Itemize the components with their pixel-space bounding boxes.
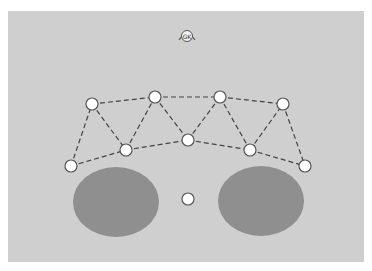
- node-n9: [299, 160, 311, 172]
- node-n1: [65, 160, 77, 172]
- right-blob: [218, 166, 304, 236]
- node-n2: [86, 98, 98, 110]
- edge-n5-n7: [188, 140, 250, 150]
- node-n3: [120, 144, 132, 156]
- edge-n4-n5: [155, 97, 188, 140]
- edge-n2-n3: [92, 104, 126, 150]
- edge-n3-n5: [126, 140, 188, 150]
- edge-n1-n2: [71, 104, 92, 166]
- edge-n2-n4: [92, 97, 155, 104]
- edge-n1-n3: [71, 150, 126, 166]
- edge-n3-n4: [126, 97, 155, 150]
- edge-n7-n8: [250, 104, 283, 150]
- edge-n5-n6: [188, 97, 220, 140]
- node-n8: [277, 98, 289, 110]
- edge-n8-n9: [283, 104, 305, 166]
- edge-layer: [71, 97, 305, 166]
- network-diagram: GK: [0, 0, 372, 271]
- edge-n6-n7: [220, 97, 250, 150]
- edge-n7-n9: [250, 150, 305, 166]
- left-blob: [73, 167, 159, 237]
- gk-badge-icon: GK: [179, 31, 195, 42]
- node-n5: [182, 134, 194, 146]
- badge-label: GK: [183, 33, 193, 40]
- node-n7: [244, 144, 256, 156]
- edge-n6-n8: [220, 97, 283, 104]
- node-n6: [214, 91, 226, 103]
- node-n4: [149, 91, 161, 103]
- node-n10: [182, 193, 194, 205]
